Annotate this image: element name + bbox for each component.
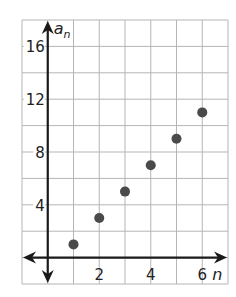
data-point <box>120 187 130 197</box>
scatter-chart: 481216 246 n an <box>0 0 236 297</box>
y-tick-label: 16 <box>26 38 45 56</box>
x-axis-label: n <box>212 265 222 284</box>
x-tick-label: 4 <box>146 266 156 284</box>
data-point <box>94 213 104 223</box>
y-tick-label: 8 <box>35 144 45 162</box>
y-axis-label-subscript: n <box>64 28 71 41</box>
data-point <box>146 160 156 170</box>
y-tick-label: 4 <box>35 197 45 215</box>
y-axis-label-main: a <box>54 19 64 38</box>
y-axis-label: an <box>54 19 71 41</box>
data-point <box>172 134 182 144</box>
grid-lines <box>22 20 228 284</box>
data-point <box>197 107 207 117</box>
x-tick-labels: 246 <box>94 266 207 284</box>
x-tick-label: 2 <box>94 266 104 284</box>
y-tick-label: 12 <box>26 91 45 109</box>
data-point <box>69 239 79 249</box>
y-tick-labels: 481216 <box>26 38 45 214</box>
x-tick-label: 6 <box>197 266 207 284</box>
